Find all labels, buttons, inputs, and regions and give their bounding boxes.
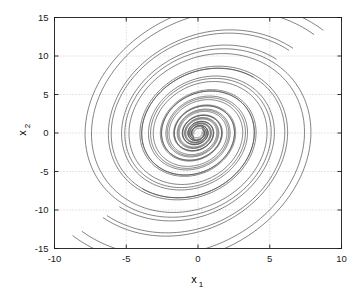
y-tick-label: 5 xyxy=(43,89,48,100)
x-tick-label: 5 xyxy=(267,253,272,264)
x-axis-title-subscript: 1 xyxy=(199,280,204,289)
y-tick-label: 0 xyxy=(43,127,48,138)
phase-portrait-chart: -10-50510-15-10-5051015 x 1 x 2 xyxy=(0,0,363,292)
figure-container: -10-50510-15-10-5051015 x 1 x 2 xyxy=(0,0,363,292)
y-axis-title-base: x xyxy=(16,130,28,136)
y-tick-label: 10 xyxy=(38,50,49,61)
x-axis-title-base: x xyxy=(191,273,197,285)
y-tick-label: -5 xyxy=(40,166,48,177)
x-tick-label: 0 xyxy=(195,253,200,264)
y-tick-label: -10 xyxy=(35,204,49,215)
x-tick-label: -5 xyxy=(122,253,130,264)
x-tick-label: 10 xyxy=(336,253,347,264)
y-axis-title-subscript: 2 xyxy=(23,123,32,128)
y-tick-label: 15 xyxy=(38,12,49,23)
x-tick-label: -10 xyxy=(48,253,62,264)
y-tick-label: -15 xyxy=(35,243,49,254)
